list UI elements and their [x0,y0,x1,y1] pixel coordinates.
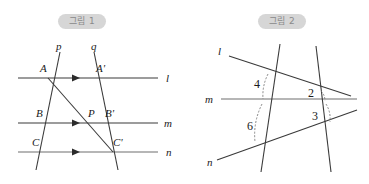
line-l [229,56,351,96]
label-transversal-p: p [55,40,62,52]
segment-a-cprime [48,78,113,152]
label-point-c: C [32,136,40,148]
angle-arc-6 [255,104,262,142]
label-line-n: n [166,146,172,158]
label-line-m: m [205,93,213,105]
line-n [217,110,357,160]
parallel-arrow-m [72,120,80,127]
angle-label-6: 6 [247,119,253,133]
angle-arc-4 [263,74,268,99]
figure-canvas: 그림 1 그림 2 l m n p q A A' B P B' C C' [0,0,369,184]
label-point-p: P [87,107,95,119]
figure-1-diagram: l m n p q A A' B P B' C C' [0,0,185,184]
parallel-arrow-l [72,75,80,82]
angle-label-4: 4 [254,77,260,91]
angle-label-2: 2 [308,86,314,100]
angle-label-3: 3 [312,109,318,123]
label-line-l: l [166,72,169,84]
label-line-n: n [207,156,213,168]
label-point-b: B [36,107,43,119]
parallel-arrow-n [72,149,80,156]
label-transversal-q: q [91,40,97,52]
label-point-a: A [39,62,47,74]
transversal-right [316,46,331,172]
label-point-c-prime: C' [113,136,123,148]
label-point-b-prime: B' [105,107,115,119]
transversal-left [261,44,280,172]
label-line-m: m [164,117,172,129]
label-line-l: l [218,45,221,57]
figure-2-diagram: 4 2 6 3 l m n [185,0,369,184]
label-point-a-prime: A' [95,62,106,74]
